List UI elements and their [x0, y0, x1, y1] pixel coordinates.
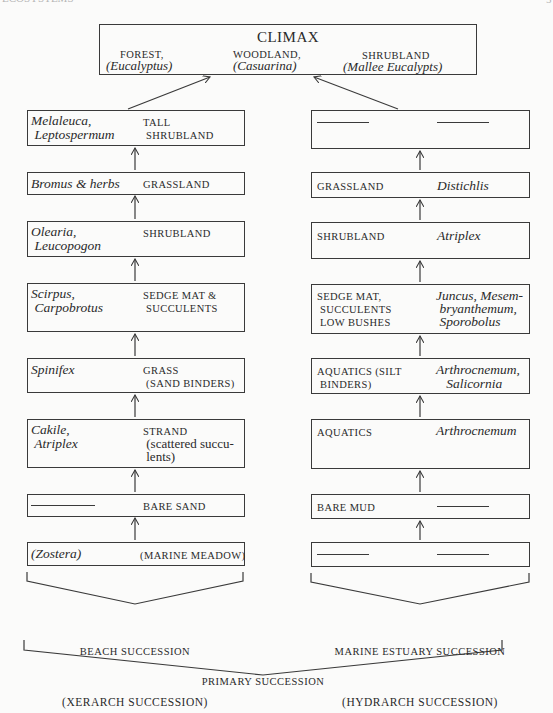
community-label: SHRUBLAND	[143, 227, 211, 240]
climax-box: CLIMAX FOREST, (Eucalyptus) WOODLAND, (C…	[99, 24, 477, 75]
community-label: GRASSLAND	[317, 180, 384, 193]
beach-stage-marine-meadow: (Zostera) (MARINE MEADOW)	[27, 542, 245, 566]
species-label: Leucopogon	[31, 238, 101, 253]
community-label: (MARINE MEADOW)	[140, 549, 245, 562]
species-label: Scirpus,	[31, 286, 75, 301]
community-label: (SAND BINDERS)	[143, 377, 235, 390]
empty-species-dash	[437, 554, 489, 555]
species-label: Arthrocnemum,	[436, 362, 520, 377]
estuary-stage-bare-mud: BARE MUD	[311, 494, 530, 519]
empty-species-dash	[437, 122, 489, 123]
community-label: TALL	[143, 116, 171, 129]
community-note: lents)	[143, 450, 175, 464]
community-label: SUCCULENTS	[143, 302, 218, 315]
species-label: Atriplex	[31, 436, 78, 451]
beach-stage-shrubland: Olearia, Leucopogon SHRUBLAND	[27, 221, 245, 257]
marine-estuary-succession-title: MARINE ESTUARY SUCCESSION	[310, 643, 530, 660]
empty-species-dash	[437, 506, 489, 507]
community-label: SUCCULENTS	[317, 303, 392, 316]
community-label: BARE MUD	[317, 501, 375, 514]
community-label: AQUATICS	[317, 426, 372, 439]
species-label: Carpobrotus	[31, 300, 103, 315]
beach-succession-label: BEACH SUCCESSION (XERARCH SUCCESSION)	[35, 609, 235, 713]
estuary-stage-grassland: GRASSLAND Distichlis	[311, 172, 530, 198]
species-label: Melaleuca,	[31, 113, 91, 128]
estuary-stage-unknown-bottom	[311, 542, 530, 567]
species-label: (Zostera)	[31, 546, 81, 561]
estuary-succession-label: MARINE ESTUARY SUCCESSION (HYDRARCH SUCC…	[310, 609, 530, 713]
species-label: Atriplex	[437, 228, 481, 243]
beach-stage-sedge-mat: Scirpus, Carpobrotus SEDGE MAT & SUCCULE…	[27, 283, 245, 332]
empty-species-dash	[31, 505, 95, 506]
community-label: BINDERS)	[317, 378, 372, 391]
community-label: SHRUBLAND	[143, 129, 214, 142]
community-label: GRASSLAND	[143, 178, 210, 191]
xerarch-succession-title: (XERARCH SUCCESSION)	[35, 694, 235, 711]
species-label: Spinifex	[31, 362, 75, 377]
climax-title: CLIMAX	[100, 30, 476, 44]
species-label: Sporobolus	[436, 314, 500, 329]
estuary-stage-aquatics: AQUATICS Arthrocnemum	[311, 419, 530, 469]
community-label: AQUATICS (SILT	[317, 365, 402, 378]
beach-stage-bare-sand: BARE SAND	[27, 494, 245, 517]
species-label: Olearia,	[31, 224, 76, 239]
estuary-stage-unknown-top	[311, 110, 530, 149]
empty-community-dash	[317, 122, 369, 123]
community-label: LOW BUSHES	[317, 316, 391, 329]
beach-stage-strand: Cakile, Atriplex STRAND (scattered succu…	[27, 419, 245, 468]
species-label: Arthrocnemum	[436, 423, 517, 438]
species-label: Bromus & herbs	[31, 176, 120, 191]
beach-succession-title: BEACH SUCCESSION	[35, 643, 235, 660]
community-label: SEDGE MAT &	[143, 289, 217, 302]
beach-stage-grassland: Bromus & herbs GRASSLAND	[27, 172, 245, 195]
climax-forest-genus: (Eucalyptus)	[106, 59, 172, 73]
species-label: Leptospermum	[31, 127, 115, 142]
hydrarch-succession-title: (HYDRARCH SUCCESSION)	[310, 694, 530, 711]
empty-community-dash	[317, 554, 369, 555]
community-label: SEDGE MAT,	[317, 290, 381, 303]
estuary-stage-shrubland: SHRUBLAND Atriplex	[311, 222, 530, 259]
community-label: SHRUBLAND	[317, 230, 385, 243]
estuary-stage-sedge-mat: SEDGE MAT, SUCCULENTS LOW BUSHES Juncus,…	[311, 284, 530, 334]
estuary-stage-aquatics-silt-binders: AQUATICS (SILT BINDERS) Arthrocnemum, Sa…	[311, 358, 530, 394]
primary-succession-label: PRIMARY SUCCESSION	[163, 673, 363, 690]
species-label: Salicornia	[436, 376, 502, 391]
community-label: BARE SAND	[143, 500, 206, 513]
community-label: GRASS	[143, 364, 179, 377]
species-label: Cakile,	[31, 422, 70, 437]
climax-shrubland-genus: (Mallee Eucalypts)	[343, 60, 442, 74]
climax-woodland-genus: (Casuarina)	[233, 59, 297, 73]
beach-stage-grass-sand-binders: Spinifex GRASS (SAND BINDERS)	[27, 358, 245, 393]
beach-stage-tall-shrubland: Melaleuca, Leptospermum TALL SHRUBLAND	[27, 110, 245, 146]
species-label: Distichlis	[437, 178, 489, 193]
